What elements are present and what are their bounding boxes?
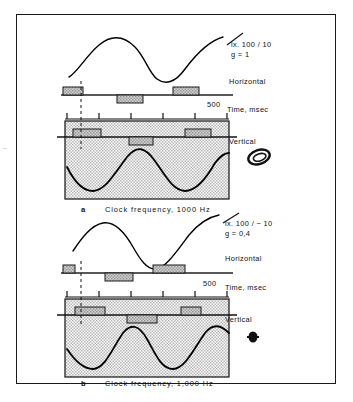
panel-a-hbar-3 xyxy=(173,87,199,95)
panel-a-vbar-3 xyxy=(185,129,211,137)
panel-a-axis-unit: Time, msec xyxy=(227,105,268,115)
panel-b-vbar-1 xyxy=(75,307,105,315)
panel-a-label-horizontal: Horizontal xyxy=(229,77,266,87)
panel-b-annotation-line1: lx. 100 / − 10 xyxy=(225,219,272,229)
panel-a-hbar-1 xyxy=(63,87,83,95)
panel-a-axis-value: 500 xyxy=(207,100,220,110)
panel-a-vbar-2 xyxy=(129,137,153,145)
scan-artifact xyxy=(3,148,7,149)
panel-a-hbar-2 xyxy=(117,95,143,103)
panel-b-vbar-3 xyxy=(181,307,201,315)
panel-a-ticks xyxy=(67,113,227,119)
panel-b-label-horizontal: Horizontal xyxy=(225,254,262,264)
panel-b-letter: b xyxy=(81,379,86,388)
panel-b-vbar-2 xyxy=(127,315,157,323)
figure-frame: lx. 100 / 10 g = 1 Horizontal 500 Time, … xyxy=(16,14,336,384)
panel-b-axis-unit: Time, msec xyxy=(225,283,266,293)
panel-b-caption: Clock frequency, 1,000 Hz xyxy=(105,379,214,389)
panel-a-horizontal-waveform xyxy=(69,37,223,82)
panel-a-annotation-line1: lx. 100 / 10 xyxy=(231,40,271,50)
panel-a-label-vertical: Vertical xyxy=(229,137,256,147)
panel-a-vbar-1 xyxy=(73,129,101,137)
panel-b-hbar-1 xyxy=(63,265,75,273)
blob-dot-icon xyxy=(247,332,259,343)
panel-b-ticks xyxy=(67,291,227,297)
panel-b-axis-value: 500 xyxy=(203,279,216,289)
panel-b-label-vertical: Vertical xyxy=(225,315,252,325)
panel-a-annotation-line2: g = 1 xyxy=(231,50,249,60)
panel-b-hbar-3 xyxy=(153,265,185,273)
ellipse-ring-icon xyxy=(246,147,271,167)
panel-b-annotation-line2: g = 0,4 xyxy=(225,229,250,239)
panel-b-horizontal-waveform xyxy=(73,215,219,269)
panel-b-hbar-2 xyxy=(105,273,133,281)
